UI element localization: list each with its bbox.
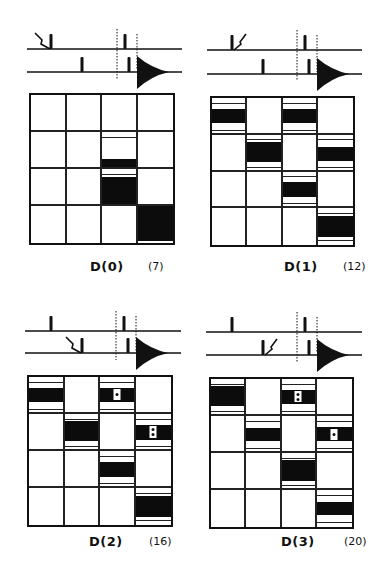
grid-cell: [318, 208, 353, 245]
top-pulse-1: [231, 35, 234, 50]
grid-cell: [211, 416, 246, 453]
sub-divider: [211, 411, 244, 412]
pulse-sequence: [191, 0, 382, 95]
grid-cell: [31, 206, 67, 243]
top-pulse-2: [123, 316, 126, 331]
grid-cell: [247, 98, 282, 135]
grid-cell: [282, 379, 317, 416]
sub-divider: [100, 483, 134, 484]
grid-cell: [136, 377, 172, 414]
grid-cell: [65, 451, 101, 488]
panel-count: (7): [148, 260, 164, 273]
top-pulse-2: [304, 317, 307, 332]
sub-divider: [282, 411, 315, 412]
sub-divider: [136, 493, 172, 494]
grid-cell: [67, 206, 103, 243]
sub-divider: [29, 382, 63, 383]
sub-divider: [317, 448, 352, 449]
sub-divider: [136, 419, 172, 420]
top-pulse-1: [50, 34, 53, 49]
sub-divider: [317, 495, 352, 496]
pulse-sequence: [0, 0, 191, 95]
grid-cell: [212, 208, 247, 245]
dot-icon: [115, 393, 118, 396]
signal-bar: [318, 147, 353, 161]
signal-bar: [318, 216, 353, 237]
sub-divider: [247, 139, 280, 140]
grid-cell: [317, 416, 352, 453]
pulse-sequence: [191, 290, 382, 385]
dot-marker-box: [295, 391, 302, 402]
spectrum-grid: [210, 96, 355, 247]
grid-cell: [282, 453, 317, 490]
signal-bar: [282, 460, 315, 481]
grid-cell: [100, 414, 136, 451]
grid-cell: [246, 379, 281, 416]
grid-cell: [100, 488, 136, 525]
zigzag-arrow-icon: [66, 337, 81, 353]
bottom-pulse-1: [262, 59, 265, 74]
panel-count: (16): [149, 535, 172, 548]
grid-cell: [31, 132, 67, 169]
dot-icon: [297, 398, 300, 401]
pulse-sequence: [0, 290, 191, 385]
grid-cell: [29, 488, 65, 525]
grid-cell: [65, 414, 101, 451]
grid-cell: [31, 95, 67, 132]
signal-bar: [283, 109, 316, 123]
signal-bar: [212, 109, 245, 123]
grid-cell: [102, 169, 138, 206]
signal-bar: [283, 182, 316, 197]
grid-cell: [136, 451, 172, 488]
sub-divider: [100, 409, 134, 410]
signal-bar: [317, 502, 352, 515]
sub-divider: [29, 409, 63, 410]
grid-cell: [29, 414, 65, 451]
grid-cell: [65, 488, 101, 525]
grid-cell: [136, 488, 172, 525]
grid-cell: [211, 490, 246, 527]
zigzag-arrow-icon: [265, 339, 277, 355]
bottom-pulse-1: [81, 57, 84, 72]
signal-bar: [65, 421, 99, 441]
grid-cell: [317, 453, 352, 490]
grid-cell: [100, 451, 136, 488]
sub-divider: [318, 213, 353, 214]
dot-marker-box: [150, 426, 157, 438]
grid-cell: [283, 135, 318, 172]
panel-d1: D(1)(12): [191, 0, 382, 290]
panel-d3: D(3)(20): [191, 290, 382, 583]
signal-bar: [29, 388, 63, 402]
spectrum-grid: [29, 93, 175, 245]
dot-icon: [152, 428, 155, 431]
grid-cell: [138, 132, 174, 169]
grid-cell: [212, 172, 247, 209]
grid-cell: [318, 98, 353, 135]
sub-divider: [282, 458, 315, 459]
dot-marker-box: [113, 389, 120, 400]
zigzag-arrow-icon: [35, 33, 50, 49]
top-pulse-1: [231, 317, 234, 332]
grid-cell: [246, 453, 281, 490]
top-pulse-2: [304, 35, 307, 50]
spectrum-grid: [27, 375, 173, 527]
sub-divider: [65, 419, 99, 420]
grid-cell: [318, 135, 353, 172]
grid-cell: [102, 206, 138, 243]
grid-cell: [100, 377, 136, 414]
grid-cell: [317, 490, 352, 527]
sub-divider: [282, 384, 315, 385]
grid-cell: [212, 135, 247, 172]
grid-cell: [283, 172, 318, 209]
sub-divider: [283, 103, 316, 104]
signal-bar: [102, 177, 136, 204]
grid-cell: [138, 206, 174, 243]
sub-divider: [102, 174, 136, 175]
panel-count: (12): [343, 260, 366, 273]
grid-cell: [282, 490, 317, 527]
grid-cell: [67, 95, 103, 132]
sub-divider: [318, 139, 353, 140]
sub-divider: [283, 203, 316, 204]
bottom-pulse-1: [81, 338, 84, 353]
grid-cell: [29, 377, 65, 414]
